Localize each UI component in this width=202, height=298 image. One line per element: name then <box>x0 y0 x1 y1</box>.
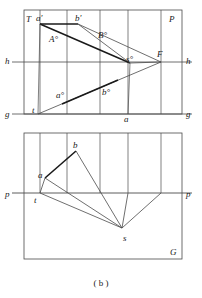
descriptive-geometry-figure: T P h h g g a' b' A° B° s° F t a° b° a <box>0 0 202 298</box>
label-a-circle: a° <box>56 90 65 100</box>
label-t-lower: t <box>34 195 37 205</box>
label-a-prime: a' <box>36 13 44 23</box>
label-p-right: p <box>185 189 191 199</box>
label-B-circle: B° <box>98 30 107 40</box>
label-a-lower-edge: a <box>124 114 129 124</box>
segment-a-to-t <box>40 178 45 193</box>
label-g-left: g <box>5 109 10 119</box>
segment-a-b <box>45 151 76 178</box>
label-b-lower: b <box>73 140 78 150</box>
segment-t-to-s <box>40 193 122 228</box>
label-T: T <box>26 14 32 24</box>
figure-container: T P h h g g a' b' A° B° s° F t a° b° a <box>0 0 202 298</box>
label-t-upper: t <box>32 105 35 115</box>
label-g-right: g <box>186 109 191 119</box>
upper-view-group: T P h h g g a' b' A° B° s° F t a° b° a <box>5 10 192 124</box>
label-P: P <box>168 14 175 24</box>
label-A-circle: A° <box>48 34 58 44</box>
label-F: F <box>156 49 163 59</box>
label-b-prime: b' <box>75 13 83 23</box>
label-p-left: p <box>4 189 10 199</box>
segment-b-to-s <box>76 151 122 228</box>
segment-s-vertical <box>122 193 128 228</box>
segment-F-to-b-prime <box>78 24 161 62</box>
label-s-circle: s° <box>126 54 134 64</box>
label-h-left: h <box>5 56 10 66</box>
label-b-circle: b° <box>102 87 111 97</box>
figure-caption: ( b ) <box>94 278 109 288</box>
label-a-lower: a <box>38 170 43 180</box>
label-G: G <box>170 247 177 257</box>
label-h-right: h <box>186 56 191 66</box>
segment-s-to-right-p <box>122 193 161 228</box>
segment-a-to-s <box>45 178 122 228</box>
lower-view-group: p p G b a t s <box>4 133 192 259</box>
label-s-lower: s <box>123 233 127 243</box>
